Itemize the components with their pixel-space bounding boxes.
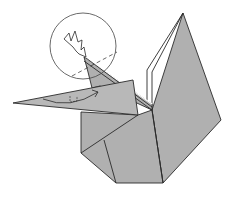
origami-diagram xyxy=(0,0,233,199)
head-flap xyxy=(13,80,138,115)
body xyxy=(81,110,163,183)
tail-flap xyxy=(152,13,221,183)
diagram-canvas xyxy=(0,0,233,199)
detail-circle xyxy=(50,13,116,79)
push-arrow-icon xyxy=(64,31,86,57)
